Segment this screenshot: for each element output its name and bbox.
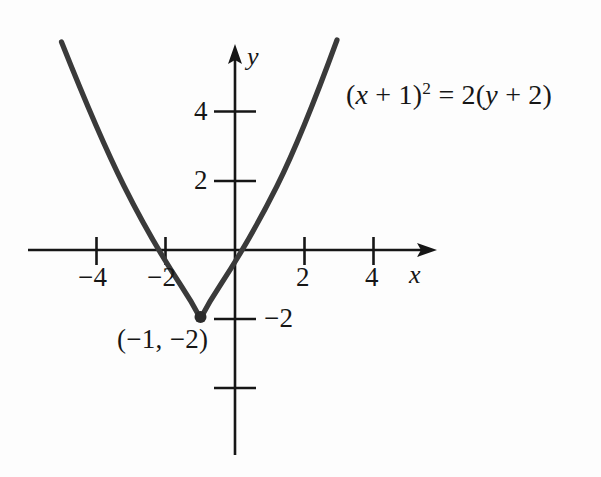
y-tick-label--2: −2	[264, 305, 293, 332]
x-tick-label--4: −4	[78, 264, 107, 291]
equation-open-paren: (	[346, 79, 356, 110]
x-tick-label-2: 2	[296, 264, 310, 291]
parabola-figure: −4 −2 2 4 4 2 −2 y x (−1, −2) (x + 1)2 =…	[0, 0, 601, 477]
equation-plus-one: + 1)	[368, 79, 422, 110]
vertex-point-marker	[195, 311, 207, 323]
equation-equals: = 2(	[431, 79, 485, 110]
equation-annotation: (x + 1)2 = 2(y + 2)	[346, 80, 552, 109]
x-axis-label: x	[409, 262, 421, 288]
vertex-coordinate-label: (−1, −2)	[117, 326, 208, 353]
equation-plus-two: + 2)	[498, 79, 552, 110]
equation-variable-x: x	[356, 79, 369, 110]
x-tick-label-4: 4	[365, 264, 379, 291]
y-tick-label-4: 4	[194, 98, 208, 125]
plot-canvas	[0, 0, 601, 477]
equation-variable-y: y	[485, 79, 498, 110]
x-tick-label--2: −2	[147, 264, 176, 291]
y-axis-label: y	[247, 44, 259, 70]
equation-exponent: 2	[422, 79, 431, 98]
y-tick-label-2: 2	[194, 167, 208, 194]
